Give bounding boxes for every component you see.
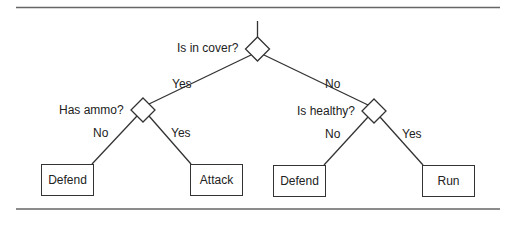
edge-right-no [324,117,368,165]
root-question: Is in cover? [177,41,238,55]
edge-left-no [92,116,137,164]
leaf-attack: Attack [190,164,243,196]
root-no-label: No [325,77,340,91]
leaf-defend-right: Defend [273,165,326,197]
leaf-defend-left: Defend [41,164,94,196]
root-diamond [246,37,270,61]
left-no-label: No [93,126,108,140]
right-no-label: No [325,127,340,141]
edge-left-yes [149,116,191,164]
root-yes-label: Yes [172,77,192,91]
leaf-run: Run [422,165,475,197]
edge-root-no [264,55,368,105]
edge-root-yes [149,55,251,104]
right-yes-label: Yes [402,127,422,141]
edge-right-yes [380,117,423,165]
left-question: Has ammo? [59,103,124,117]
right-question: Is healthy? [297,104,355,118]
left-yes-label: Yes [171,126,191,140]
